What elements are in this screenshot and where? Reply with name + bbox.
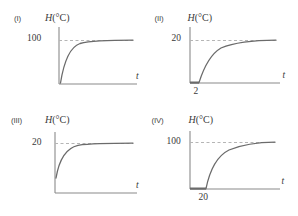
curve-II xyxy=(199,40,276,82)
chart-svg-III xyxy=(0,108,148,216)
panel-I: (I) H(°C) 100 t xyxy=(0,0,149,108)
curve-IV xyxy=(206,142,275,188)
chart-svg-II xyxy=(149,0,298,107)
panel-IV: (IV) H(°C) 100 20 t xyxy=(149,108,298,216)
panel-II: (II) H(°C) 20 2 t xyxy=(149,0,298,108)
curve-III xyxy=(56,143,133,178)
curve-I xyxy=(61,40,134,83)
chart-svg-I xyxy=(0,0,148,107)
figure-panel-grid: (I) H(°C) 100 t (II) H(°C) 20 2 t xyxy=(0,0,297,215)
chart-svg-IV xyxy=(149,108,298,216)
panel-III: (III) H(°C) 20 t xyxy=(0,108,149,216)
